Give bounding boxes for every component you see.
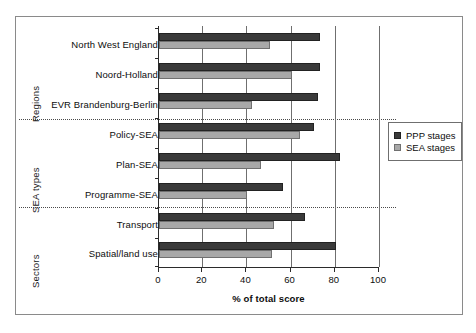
bar-ppp-spatial-land-use — [159, 242, 336, 250]
legend-label-sea-stages: SEA stages — [406, 142, 455, 153]
bar-sea-programme-sea — [159, 191, 247, 199]
gridline-100 — [379, 26, 380, 267]
x-tick-label-100: 100 — [370, 274, 386, 285]
y-tick — [155, 28, 159, 29]
category-label-spatial-land-use: Spatial/land use — [28, 248, 158, 259]
category-label-evr-brandenburg-berlin: EVR Brandenburg-Berlin — [28, 99, 158, 110]
chart-figure: Regions SEA types Sectors North West Eng… — [15, 16, 463, 315]
x-tick-80 — [334, 267, 335, 272]
x-axis-title: % of total score — [158, 293, 379, 304]
legend-label-ppp-stages: PPP stages — [406, 130, 455, 141]
y-tick — [155, 58, 159, 59]
bar-ppp-evr-brandenburg-berlin — [159, 93, 318, 101]
legend-swatch-ppp-stages — [394, 132, 401, 139]
category-label-policy-sea: Policy-SEA — [28, 129, 158, 140]
category-label-programme-sea: Programme-SEA — [28, 189, 158, 200]
bar-ppp-policy-sea — [159, 123, 314, 131]
bar-sea-north-west-england — [159, 41, 270, 49]
x-tick-0 — [158, 267, 159, 272]
gridline-80 — [335, 26, 336, 267]
y-tick — [155, 148, 159, 149]
bar-ppp-plan-sea — [159, 153, 340, 161]
category-label-transport: Transport — [28, 219, 158, 230]
bar-sea-plan-sea — [159, 161, 261, 169]
bar-ppp-programme-sea — [159, 183, 283, 191]
x-tick-label-0: 0 — [155, 274, 160, 285]
x-tick-60 — [290, 267, 291, 272]
legend-item-ppp-stages: PPP stages — [394, 130, 455, 141]
y-tick — [155, 118, 159, 119]
category-label-north-west-england: North West England — [28, 39, 158, 50]
bar-ppp-north-west-england — [159, 33, 320, 41]
legend-swatch-sea-stages — [394, 144, 401, 151]
x-tick-100 — [378, 267, 379, 272]
chart-legend: PPP stages SEA stages — [388, 122, 462, 161]
bar-sea-spatial-land-use — [159, 250, 272, 258]
x-tick-label-40: 40 — [240, 274, 251, 285]
category-label-axis: North West England Noord-Holland EVR Bra… — [26, 17, 158, 314]
bar-sea-noord-holland — [159, 71, 292, 79]
y-tick — [155, 208, 159, 209]
x-tick-40 — [245, 267, 246, 272]
y-tick — [155, 88, 159, 89]
x-axis: 0 20 40 60 80 100 — [158, 267, 379, 268]
x-tick-20 — [201, 267, 202, 272]
bar-sea-policy-sea — [159, 131, 300, 139]
x-tick-label-60: 60 — [284, 274, 295, 285]
bar-sea-transport — [159, 221, 274, 229]
category-label-noord-holland: Noord-Holland — [28, 69, 158, 80]
x-tick-label-80: 80 — [329, 274, 340, 285]
category-label-plan-sea: Plan-SEA — [28, 159, 158, 170]
bar-ppp-noord-holland — [159, 63, 320, 71]
y-tick — [155, 238, 159, 239]
plot-area — [158, 26, 380, 267]
bar-sea-evr-brandenburg-berlin — [159, 101, 252, 109]
x-tick-label-20: 20 — [196, 274, 207, 285]
bar-ppp-transport — [159, 213, 305, 221]
legend-item-sea-stages: SEA stages — [394, 142, 455, 153]
y-tick — [155, 178, 159, 179]
